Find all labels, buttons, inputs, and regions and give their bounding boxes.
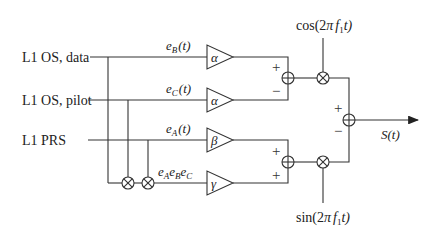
carrier-multiplier-cos-icon xyxy=(317,72,329,84)
gain-amplifier-data: α xyxy=(207,45,233,69)
signal-label-ea: eA(t) xyxy=(166,121,191,138)
signal-label-eb: eB(t) xyxy=(166,38,191,55)
input-label-l1-os-pilot: L1 OS, pilot xyxy=(22,93,92,108)
summer-icon-final xyxy=(343,114,355,126)
lower-summer-sign-plus-2: + xyxy=(272,167,280,183)
lower-summer-sign-plus-1: + xyxy=(272,143,280,159)
gain-amplifier-pilot: α xyxy=(207,88,233,112)
summer-icon-lower xyxy=(282,156,294,168)
svg-text:α: α xyxy=(211,50,219,65)
cos-carrier-label: cos(2πf1t) xyxy=(296,18,353,35)
input-label-l1-prs: L1 PRS xyxy=(22,133,66,148)
output-label: S(t) xyxy=(381,127,400,142)
signal-label-ec: eC(t) xyxy=(166,81,191,98)
sin-carrier-label: sin(2πf1t) xyxy=(296,210,350,227)
final-summer-sign-minus: − xyxy=(334,123,342,139)
carrier-multiplier-sin-icon xyxy=(317,156,329,168)
gain-amplifier-prs: β xyxy=(207,128,233,152)
signal-label-product: eAeBeC xyxy=(158,164,193,181)
svg-text:α: α xyxy=(211,93,219,108)
final-summer-sign-plus: + xyxy=(334,100,342,116)
modulation-block-diagram: L1 OS, data L1 OS, pilot L1 PRS eB(t) eC… xyxy=(0,0,438,233)
svg-text:γ: γ xyxy=(211,176,217,191)
upper-summer-sign-plus: + xyxy=(272,59,280,75)
multiplier-icon xyxy=(142,177,154,189)
svg-text:β: β xyxy=(210,133,218,148)
summer-icon-upper xyxy=(282,72,294,84)
input-label-l1-os-data: L1 OS, data xyxy=(22,50,90,65)
gain-amplifier-product: γ xyxy=(207,171,233,195)
multiplier-icon xyxy=(122,177,134,189)
upper-summer-sign-minus: − xyxy=(272,83,280,99)
